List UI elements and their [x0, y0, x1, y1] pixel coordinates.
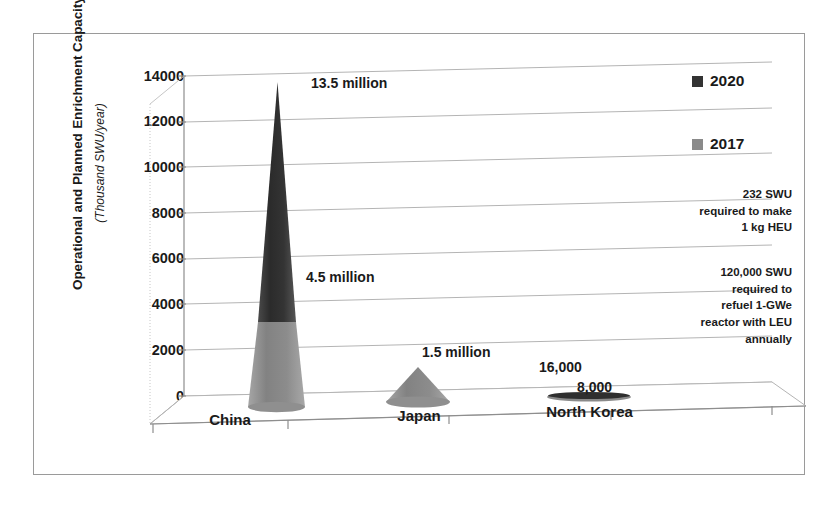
legend-label-2020: 2020	[710, 72, 744, 90]
annotation-swu-leu-line3: refuel 1-GWe	[667, 297, 792, 314]
annotation-swu-leu-line4: reactor with LEU	[667, 314, 792, 331]
annotation-swu-leu-line5: annually	[667, 331, 792, 348]
data-label-nk-2020: 16,000	[539, 359, 582, 375]
annotation-swu-heu-line3: 1 kg HEU	[667, 219, 792, 236]
data-label-china-2020: 13.5 million	[311, 75, 387, 91]
annotation-swu-leu-line1: 120,000 SWU	[667, 264, 792, 281]
legend-label-2017: 2017	[710, 135, 744, 153]
legend-swatch-2020	[692, 76, 703, 87]
annotation-swu-heu-line1: 232 SWU	[667, 186, 792, 203]
y-axis-line	[150, 76, 186, 424]
data-label-nk-2017: 8,000	[577, 379, 612, 395]
legend-swatch-2017	[692, 139, 703, 150]
data-label-japan: 1.5 million	[422, 344, 490, 360]
legend-item-2020[interactable]: 2020	[684, 72, 799, 90]
x-category-north-korea: North Korea	[517, 403, 662, 420]
legend-item-2017[interactable]: 2017	[684, 135, 799, 153]
chart-legend: 2020 2017	[684, 72, 799, 198]
chart-figure-frame: Operational and Planned Enrichment Capac…	[33, 33, 805, 475]
x-category-china: China	[175, 411, 285, 428]
annotation-swu-leu-line2: required to	[667, 281, 792, 298]
annotation-swu-leu: 120,000 SWU required to refuel 1-GWe rea…	[667, 264, 792, 347]
annotation-swu-heu-line2: required to make	[667, 203, 792, 220]
annotation-swu-heu: 232 SWU required to make 1 kg HEU	[667, 186, 792, 236]
x-category-japan: Japan	[364, 407, 474, 424]
bar-china-2017	[248, 322, 305, 407]
data-label-china-2017: 4.5 million	[306, 269, 374, 285]
